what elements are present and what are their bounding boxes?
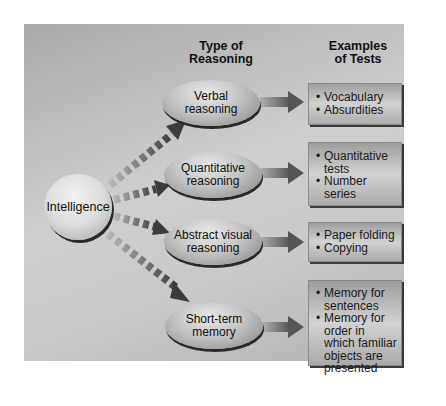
dashed-arrow-quantitative [114, 180, 170, 200]
example-item: Vocabulary [316, 91, 398, 104]
dashed-arrow-abstract [114, 216, 170, 235]
oval-quantitative-reasoning: Quantitativereasoning [164, 152, 262, 198]
example-item: Number series [316, 175, 398, 200]
oval-label: Abstract visual [174, 229, 252, 243]
oval-verbal-reasoning: Verbalreasoning [162, 80, 260, 126]
oval-abstract-visual-reasoning: Abstract visualreasoning [164, 219, 262, 265]
examples-box-verbal: Vocabulary Absurdities [308, 83, 402, 125]
example-item: Paper folding [316, 229, 398, 242]
header-line: of Tests [318, 53, 398, 66]
example-item: Memory for sentences [316, 287, 398, 312]
oval-label: reasoning [185, 103, 238, 117]
oval-label: Quantitative [181, 162, 245, 176]
oval-label: reasoning [181, 175, 245, 189]
arrow-abstract-to-examples [260, 231, 304, 253]
examples-box-short-term: Memory for sentences Memory for order in… [308, 280, 402, 366]
header-examples-of-tests: Examples of Tests [318, 40, 398, 66]
arrow-verbal-to-examples [260, 91, 304, 113]
examples-box-quantitative: Quantitative tests Number series [308, 142, 402, 206]
oval-label: memory [186, 326, 243, 340]
oval-label: reasoning [174, 242, 252, 256]
intelligence-node: Intelligence [44, 174, 112, 240]
arrow-quantitative-to-examples [260, 162, 304, 184]
header-type-of-reasoning: Type of Reasoning [176, 40, 266, 66]
header-line: Reasoning [176, 53, 266, 66]
example-item: Quantitative tests [316, 150, 398, 175]
example-item: Copying [316, 242, 398, 255]
example-item: Memory for order in which familiar objec… [316, 312, 398, 375]
intelligence-label: Intelligence [46, 200, 109, 214]
examples-box-abstract: Paper folding Copying [308, 222, 402, 262]
arrow-short-term-to-examples [262, 316, 304, 338]
oval-label: Short-term [186, 313, 243, 327]
oval-short-term-memory: Short-termmemory [165, 303, 263, 349]
example-item: Absurdities [316, 104, 398, 117]
oval-label: Verbal [185, 90, 238, 104]
